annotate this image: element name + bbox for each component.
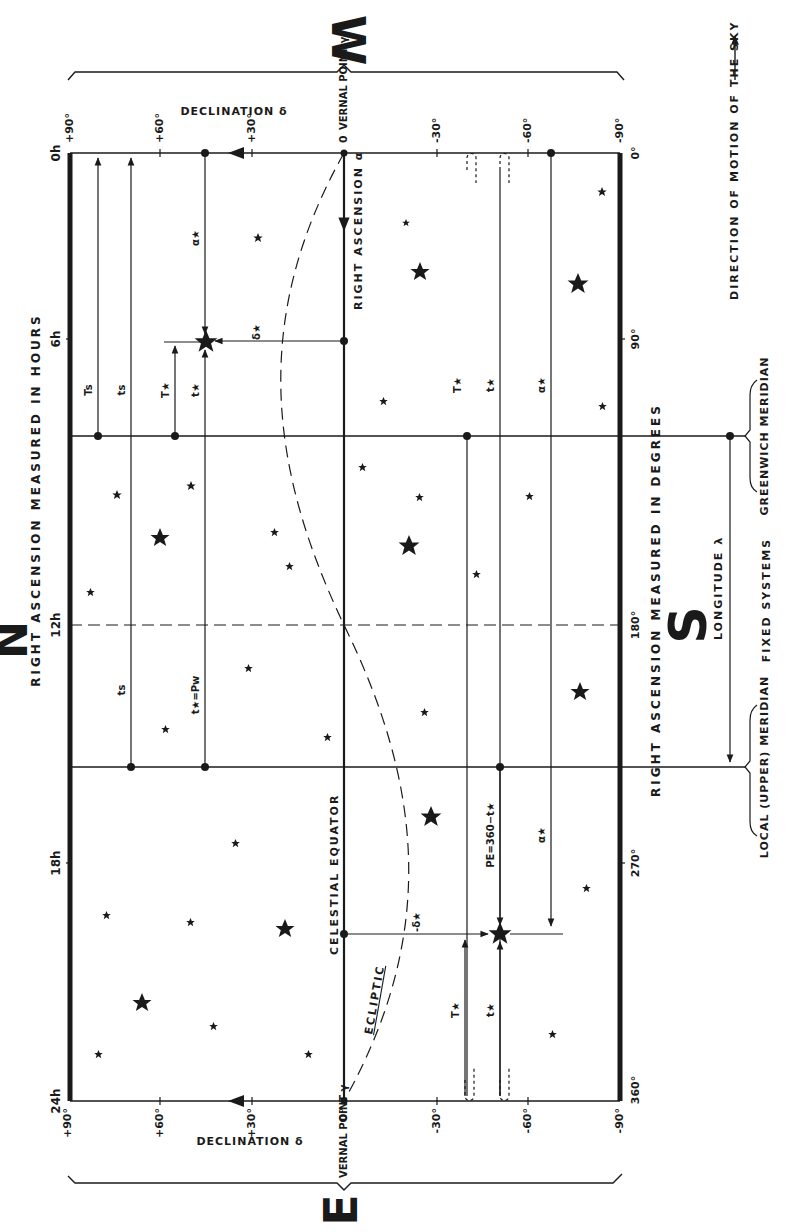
local-meridian-brace bbox=[745, 705, 757, 836]
label-tstar-pw: t★=Pw bbox=[190, 676, 201, 715]
label-alpha-south-lower: α★ bbox=[536, 827, 547, 843]
northern-reference-star-icon bbox=[195, 330, 218, 352]
compass-south-icon: S bbox=[658, 606, 718, 643]
svg-text:6h: 6h bbox=[49, 331, 63, 348]
declination-arrow-top bbox=[228, 147, 244, 159]
svg-text:90°: 90° bbox=[629, 329, 642, 350]
celestial-equator-label: CELESTIAL EQUATOR bbox=[328, 794, 341, 955]
ecliptic-label: ECLIPTIC bbox=[362, 964, 387, 1036]
degree-labels: 0° 90° 180° 270° 360° bbox=[629, 146, 642, 1104]
svg-text:12h: 12h bbox=[49, 612, 63, 637]
vernal-point-dot-bottom bbox=[341, 1098, 348, 1105]
label-pe: PE=360−t★ bbox=[485, 802, 496, 868]
label-tstar-south: t★ bbox=[485, 378, 496, 392]
svg-text:-90°: -90° bbox=[613, 1108, 626, 1133]
svg-text:-30°: -30° bbox=[430, 1108, 443, 1133]
greenwich-brace bbox=[745, 380, 757, 492]
svg-text:-60°: -60° bbox=[521, 1108, 534, 1133]
label-ts-lower: ts bbox=[116, 685, 127, 696]
label-alpha-south-upper: α★ bbox=[536, 377, 547, 393]
label-Tstar-south: T★ bbox=[452, 377, 463, 393]
svg-text:-90°: -90° bbox=[613, 118, 626, 143]
southern-dots bbox=[340, 149, 555, 938]
svg-text:180°: 180° bbox=[629, 611, 642, 639]
right-ascension-alpha-label: RIGHT ASCENSION α bbox=[352, 151, 365, 310]
top-axis-title: RIGHT ASCENSION MEASURED IN HOURS bbox=[29, 313, 43, 686]
label-Tstar-north: T★ bbox=[160, 382, 171, 398]
greenwich-dot bbox=[726, 432, 734, 440]
fixed-systems-label: FIXED SYSTEMS bbox=[760, 538, 773, 662]
declination-arrow-bottom bbox=[228, 1095, 244, 1107]
label-Tstar-south-lower: T★ bbox=[450, 1002, 461, 1018]
declination-title-top: DECLINATION δ bbox=[180, 105, 287, 118]
celestial-coordinate-diagram: W E N S +90° +60° +30 bbox=[0, 0, 806, 1232]
label-alpha-north: α★ bbox=[190, 230, 201, 246]
southern-loops bbox=[465, 154, 509, 1101]
label-ts-north: ts bbox=[116, 385, 127, 396]
svg-text:360°: 360° bbox=[629, 1076, 642, 1104]
hour-labels: 0h 6h 12h 18h 24h bbox=[49, 145, 63, 1114]
svg-text:18h: 18h bbox=[49, 850, 63, 875]
declination-title-bottom: DECLINATION δ bbox=[196, 1135, 303, 1148]
svg-text:24h: 24h bbox=[49, 1088, 63, 1113]
vernal-point-dot-top bbox=[341, 150, 348, 157]
svg-text:S: S bbox=[658, 606, 718, 643]
svg-text:+30°: +30° bbox=[245, 1108, 258, 1138]
longitude-label: LONGITUDE λ bbox=[712, 536, 725, 640]
svg-text:0°: 0° bbox=[629, 146, 642, 159]
svg-text:-30°: -30° bbox=[430, 118, 443, 143]
label-tstar-north: t★ bbox=[190, 383, 201, 397]
label-delta-north: δ★ bbox=[251, 324, 262, 340]
compass-east-icon: E bbox=[314, 1194, 368, 1225]
svg-text:+90°: +90° bbox=[63, 113, 76, 143]
label-tstar-south-lower: t★ bbox=[485, 1003, 496, 1017]
svg-text:0: 0 bbox=[337, 135, 350, 143]
svg-text:E: E bbox=[314, 1194, 368, 1225]
svg-text:+60°: +60° bbox=[153, 1108, 166, 1138]
label-Ts-north: Ts bbox=[83, 384, 94, 395]
northern-dots bbox=[94, 149, 348, 771]
svg-text:+90°: +90° bbox=[61, 1108, 74, 1138]
background-stars bbox=[86, 187, 607, 1058]
greenwich-label-1: GREENWICH MERIDIAN bbox=[758, 356, 771, 515]
svg-text:-60°: -60° bbox=[521, 118, 534, 143]
northern-star-construction bbox=[98, 153, 344, 767]
label-minus-delta: -δ★ bbox=[411, 912, 422, 932]
bottom-axis-title: RIGHT ASCENSION MEASURED IN DEGREES bbox=[649, 403, 663, 797]
svg-text:270°: 270° bbox=[629, 849, 642, 877]
svg-text:0h: 0h bbox=[49, 145, 63, 162]
local-meridian-label: LOCAL (UPPER) MERIDIAN bbox=[758, 676, 771, 858]
svg-text:+60°: +60° bbox=[153, 113, 166, 143]
vernal-point-label-top: VERNAL POINT γ bbox=[338, 37, 349, 130]
